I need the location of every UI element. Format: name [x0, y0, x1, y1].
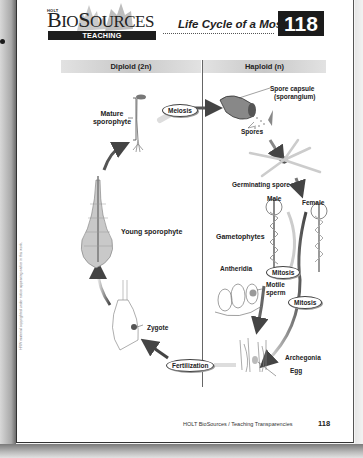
label-germinating-spore: Germinating spore [232, 181, 290, 189]
label-gametophytes: Gametophytes [216, 233, 265, 241]
label-zygote: Zygote [147, 324, 168, 332]
process-fertilization: Fertilization [166, 359, 214, 372]
label-spores: Spores [241, 128, 263, 136]
label-motile-sperm: Motile sperm [266, 281, 286, 297]
footer-page-number: 118 [318, 419, 330, 428]
copyright-notice: HRW material copyrighted under notice ap… [19, 242, 23, 350]
label-female: Female [302, 199, 324, 207]
label-spore-capsule: Spore capsule (sporangium) [270, 85, 316, 101]
footer-credit: HOLT BioSources / Teaching Transparencie… [183, 421, 292, 427]
label-archegonia: Archegonia [285, 354, 321, 362]
label-mature-sporophyte: Mature sporophyte [92, 110, 132, 126]
label-young-sporophyte: Young sporophyte [121, 228, 182, 236]
label-male: Male [267, 195, 281, 203]
process-meiosis: Meiosis [162, 104, 198, 117]
label-egg: Egg [290, 367, 302, 375]
label-antheridia: Antheridia [220, 265, 252, 273]
